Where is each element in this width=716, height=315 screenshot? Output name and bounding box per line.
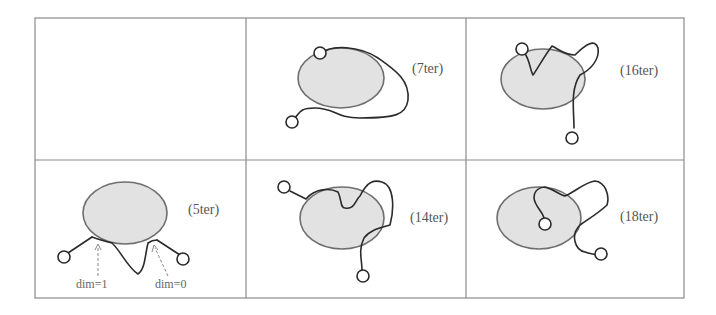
endpoint [595, 248, 607, 260]
cell-18ter: (18ter) [497, 181, 658, 260]
cell-7ter: (7ter) [286, 47, 443, 128]
endpoint [286, 116, 298, 128]
cell-14ter: (14ter) [278, 181, 448, 282]
endpoint [566, 132, 578, 144]
dim0-arrow [155, 248, 168, 276]
endpoint [539, 218, 551, 230]
endpoint [314, 47, 326, 59]
figure-grid: (7ter) (16ter) dim=1 dim=0 (5ter) (14ter… [0, 0, 716, 315]
endpoint [278, 181, 290, 193]
cell-label: (16ter) [620, 63, 658, 79]
cell-label: (18ter) [620, 209, 658, 225]
cell-label: (5ter) [188, 202, 219, 218]
dim1-label: dim=1 [76, 277, 107, 291]
cell-label: (14ter) [410, 210, 448, 226]
disk [298, 48, 384, 108]
thread-curve-right [157, 240, 180, 255]
cell-16ter: (16ter) [501, 43, 658, 144]
cell-5ter: dim=1 dim=0 (5ter) [58, 182, 219, 291]
endpoint [58, 251, 70, 263]
disk [497, 187, 581, 249]
endpoint [357, 270, 369, 282]
endpoint [516, 43, 528, 55]
endpoint [177, 253, 189, 265]
disk [300, 187, 384, 249]
thread-curve-left [68, 237, 92, 253]
disk [83, 182, 167, 244]
dim0-label: dim=0 [155, 277, 186, 291]
cell-label: (7ter) [412, 61, 443, 77]
